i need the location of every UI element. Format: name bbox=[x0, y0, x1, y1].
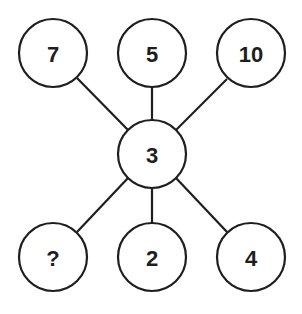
node-label: 5 bbox=[146, 42, 158, 67]
node-label: 2 bbox=[146, 246, 158, 271]
node-label: 4 bbox=[245, 246, 258, 271]
edge-bottom-right bbox=[176, 178, 227, 232]
node-top-middle: 5 bbox=[118, 19, 186, 87]
puzzle-diagram: 7 5 10 3 ? 2 4 bbox=[0, 0, 302, 314]
node-top-left: 7 bbox=[19, 19, 87, 87]
unknown-node-label: ? bbox=[46, 246, 59, 271]
node-bottom-left: ? bbox=[19, 223, 87, 291]
node-label: 10 bbox=[239, 42, 263, 67]
node-bottom-right: 4 bbox=[217, 223, 285, 291]
node-center: 3 bbox=[118, 120, 186, 188]
node-top-right: 10 bbox=[217, 19, 285, 87]
edge-bottom-left bbox=[77, 178, 128, 232]
node-label: 7 bbox=[47, 42, 59, 67]
node-label: 3 bbox=[146, 143, 158, 168]
node-bottom-middle: 2 bbox=[118, 223, 186, 291]
edge-top-right bbox=[176, 79, 227, 130]
edge-top-left bbox=[77, 78, 128, 130]
